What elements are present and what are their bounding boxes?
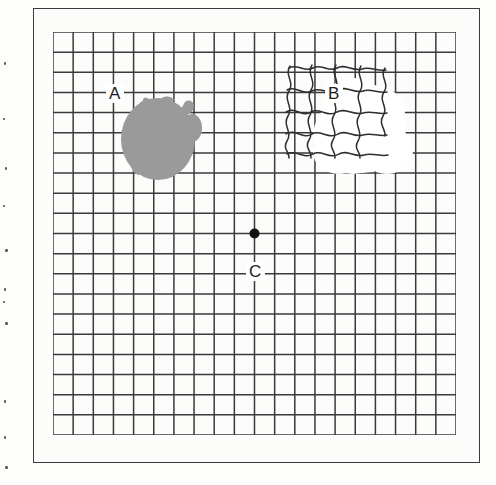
central-fixation-dot xyxy=(250,229,260,239)
label-b: B xyxy=(325,84,343,103)
scanned-page: A B C xyxy=(0,0,496,485)
label-c: C xyxy=(246,262,265,281)
label-a: A xyxy=(106,84,124,103)
